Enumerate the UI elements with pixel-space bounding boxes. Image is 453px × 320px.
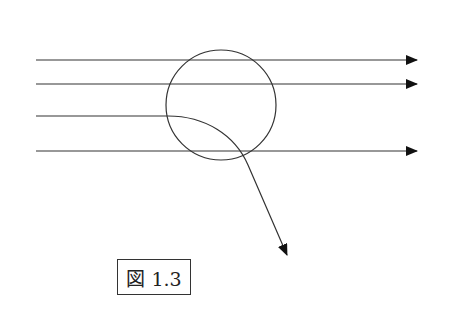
deflected-ray [36, 116, 287, 255]
scattering-sphere [166, 50, 276, 160]
figure-caption: 図 1.3 [117, 259, 191, 295]
scattering-diagram [0, 0, 453, 320]
figure-caption-text: 図 1.3 [126, 264, 181, 291]
